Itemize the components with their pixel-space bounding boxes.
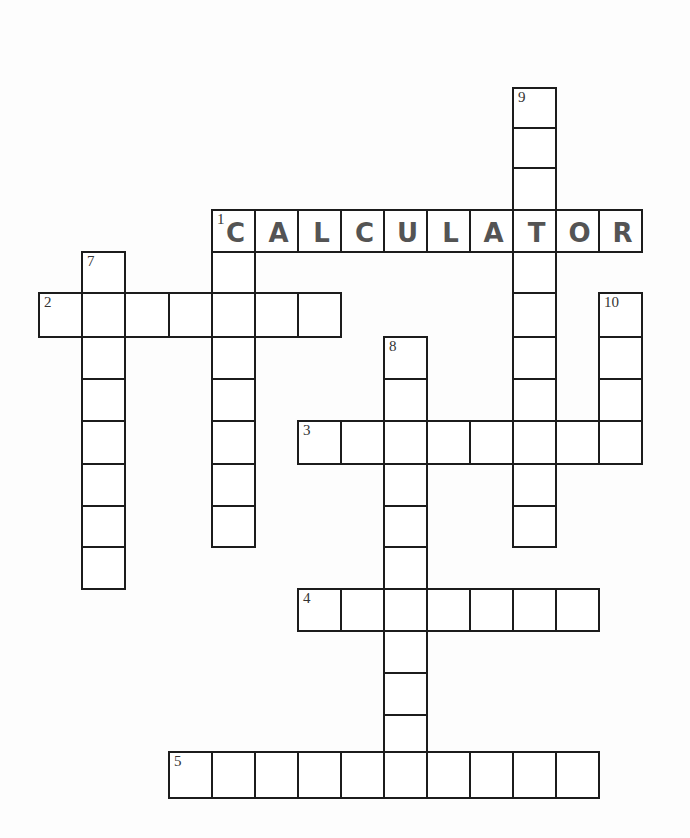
crossword-cell[interactable]: [211, 336, 256, 380]
crossword-cell[interactable]: [211, 505, 256, 548]
crossword-cell[interactable]: [512, 127, 557, 169]
filled-letter: T: [514, 211, 555, 251]
clue-number: 2: [44, 295, 52, 310]
crossword-cell[interactable]: [254, 751, 299, 799]
crossword-cell[interactable]: [469, 588, 514, 632]
filled-letter: L: [299, 211, 340, 251]
filled-letter: A: [471, 211, 512, 251]
crossword-cell[interactable]: [512, 751, 557, 799]
crossword-cell[interactable]: [168, 292, 213, 338]
crossword-cell[interactable]: A: [469, 209, 514, 253]
crossword-cell[interactable]: [383, 546, 428, 590]
crossword-grid: 1CALCULATOR234578910: [0, 0, 690, 838]
crossword-cell[interactable]: 4: [297, 588, 342, 632]
crossword-cell[interactable]: [555, 420, 600, 465]
crossword-cell[interactable]: [383, 630, 428, 674]
crossword-cell[interactable]: [297, 751, 342, 799]
crossword-cell[interactable]: [81, 378, 126, 422]
crossword-cell[interactable]: [598, 378, 643, 422]
clue-number: 10: [604, 295, 619, 310]
crossword-cell[interactable]: U: [383, 209, 428, 253]
crossword-cell[interactable]: [383, 672, 428, 716]
crossword-cell[interactable]: [469, 420, 514, 465]
crossword-cell[interactable]: [211, 378, 256, 422]
crossword-cell[interactable]: [598, 420, 643, 465]
crossword-cell[interactable]: [512, 463, 557, 507]
crossword-cell[interactable]: [211, 463, 256, 507]
crossword-cell[interactable]: 2: [38, 292, 83, 338]
crossword-cell[interactable]: C: [340, 209, 385, 253]
crossword-cell[interactable]: [81, 420, 126, 465]
crossword-cell[interactable]: [512, 505, 557, 548]
crossword-cell[interactable]: [512, 251, 557, 294]
crossword-cell[interactable]: [426, 751, 471, 799]
crossword-cell[interactable]: [81, 546, 126, 590]
filled-letter: C: [342, 211, 383, 251]
crossword-cell[interactable]: [512, 336, 557, 380]
crossword-cell[interactable]: 8: [383, 336, 428, 380]
crossword-cell[interactable]: [211, 751, 256, 799]
crossword-cell[interactable]: [426, 588, 471, 632]
crossword-cell[interactable]: [512, 378, 557, 422]
crossword-cell[interactable]: [383, 420, 428, 465]
crossword-cell[interactable]: [383, 588, 428, 632]
crossword-cell[interactable]: [598, 336, 643, 380]
crossword-cell[interactable]: [124, 292, 170, 338]
clue-number: 5: [174, 754, 182, 769]
crossword-cell[interactable]: [81, 463, 126, 507]
crossword-cell[interactable]: [211, 251, 256, 294]
crossword-cell[interactable]: T: [512, 209, 557, 253]
crossword-cell[interactable]: L: [297, 209, 342, 253]
crossword-cell[interactable]: [297, 292, 342, 338]
crossword-cell[interactable]: [555, 751, 600, 799]
crossword-cell[interactable]: [81, 505, 126, 548]
crossword-cell[interactable]: [383, 714, 428, 753]
crossword-cell[interactable]: [555, 588, 600, 632]
crossword-cell[interactable]: [211, 292, 256, 338]
clue-number: 4: [303, 591, 311, 606]
crossword-cell[interactable]: [512, 588, 557, 632]
crossword-cell[interactable]: 7: [81, 251, 126, 294]
crossword-cell[interactable]: 5: [168, 751, 213, 799]
crossword-cell[interactable]: 1C: [211, 209, 256, 253]
filled-letter: U: [385, 211, 426, 251]
clue-number: 3: [303, 423, 311, 438]
crossword-cell[interactable]: [81, 336, 126, 380]
crossword-cell[interactable]: R: [598, 209, 643, 253]
crossword-cell[interactable]: A: [254, 209, 299, 253]
crossword-cell[interactable]: 9: [512, 87, 557, 129]
crossword-cell[interactable]: O: [555, 209, 600, 253]
crossword-cell[interactable]: [254, 292, 299, 338]
crossword-cell[interactable]: [81, 292, 126, 338]
crossword-cell[interactable]: [340, 751, 385, 799]
filled-letter: C: [213, 211, 254, 251]
crossword-cell[interactable]: 10: [598, 292, 643, 338]
filled-letter: R: [600, 211, 641, 251]
crossword-cell[interactable]: [211, 420, 256, 465]
crossword-cell[interactable]: [469, 751, 514, 799]
crossword-cell[interactable]: [340, 588, 385, 632]
crossword-cell[interactable]: L: [426, 209, 471, 253]
crossword-cell[interactable]: [340, 420, 385, 465]
filled-letter: L: [428, 211, 469, 251]
crossword-cell[interactable]: [383, 751, 428, 799]
crossword-cell[interactable]: [383, 505, 428, 548]
crossword-cell[interactable]: [512, 420, 557, 465]
crossword-cell[interactable]: [383, 378, 428, 422]
clue-number: 9: [518, 90, 526, 105]
filled-letter: A: [256, 211, 297, 251]
crossword-cell[interactable]: [512, 292, 557, 338]
crossword-cell[interactable]: [383, 463, 428, 507]
clue-number: 8: [389, 339, 397, 354]
crossword-cell[interactable]: [512, 167, 557, 211]
clue-number: 7: [87, 254, 95, 269]
crossword-cell[interactable]: 3: [297, 420, 342, 465]
crossword-cell[interactable]: [426, 420, 471, 465]
filled-letter: O: [557, 211, 598, 251]
